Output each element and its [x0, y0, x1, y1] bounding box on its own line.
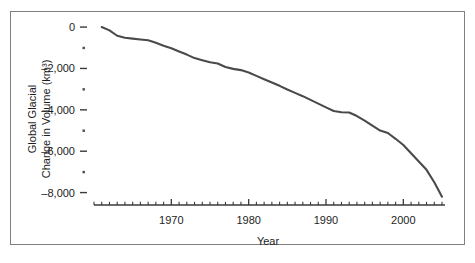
x-tick-label: 1980: [236, 214, 260, 226]
y-minor-tick: [83, 171, 85, 173]
chart-svg: 0–2,000–4,000–6,000–8,000 19701980199020…: [11, 12, 466, 246]
y-minor-tick: [83, 130, 85, 132]
data-series-line: [102, 27, 442, 197]
line-chart: 0–2,000–4,000–6,000–8,000 19701980199020…: [11, 12, 466, 246]
y-minor-tick: [83, 47, 85, 49]
x-axis-title: Year: [257, 235, 280, 246]
y-tick-label: 0: [69, 21, 75, 33]
x-axis-group: [94, 199, 445, 205]
y-axis-title-line-2: Change in Volume (km³): [40, 60, 52, 179]
top-caption-artifact: [0, 0, 475, 9]
y-tick-label: –8,000: [41, 187, 75, 199]
x-tick-label-group: 1970198019902000: [159, 214, 415, 226]
y-axis-title-line-1: Global Glacial: [26, 85, 38, 153]
figure-frame: 0–2,000–4,000–6,000–8,000 19701980199020…: [10, 11, 465, 245]
x-tick-label: 1990: [314, 214, 338, 226]
x-tick-label: 1970: [159, 214, 183, 226]
x-tick-label: 2000: [391, 214, 415, 226]
y-tick-mark-group: [80, 27, 87, 193]
y-minor-tick: [83, 88, 85, 90]
